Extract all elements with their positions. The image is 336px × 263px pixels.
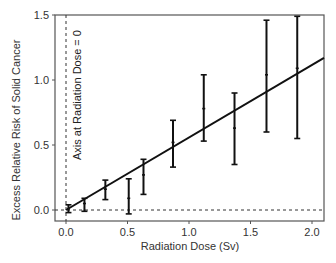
data-point [170,120,176,167]
plot-border [55,15,324,221]
x-tick-label: 1.0 [181,226,196,238]
y-tick-label: 0.5 [34,139,49,151]
y-tick-label: 1.5 [34,9,49,21]
x-tick-label: 0.0 [58,226,73,238]
data-point [102,180,108,200]
y-axis-label: Excess Relative Risk of Solid Cancer [10,39,22,220]
data-point [294,16,300,138]
chart: 0.00.51.01.52.0 0.00.51.01.5 Radiation D… [0,0,336,263]
x-tick-label: 0.5 [120,226,135,238]
data-point [126,179,132,214]
y-tick-label: 1.0 [34,74,49,86]
x-axis-label: Radiation Dose (Sv) [141,240,239,252]
data-point [263,20,269,132]
data-point [232,93,238,165]
data-points [65,16,300,214]
y-tick-label: 0.0 [34,204,49,216]
reference-lines [55,15,324,221]
x-axis-ticks: 0.00.51.01.52.0 [58,221,319,238]
y-axis-ticks: 0.00.51.01.5 [34,9,55,216]
x-tick-label: 1.5 [243,226,258,238]
x-tick-label: 2.0 [304,226,319,238]
zero-dose-annotation: Axis at Radiation Dose = 0 [71,30,83,160]
plot-frame [55,15,324,221]
